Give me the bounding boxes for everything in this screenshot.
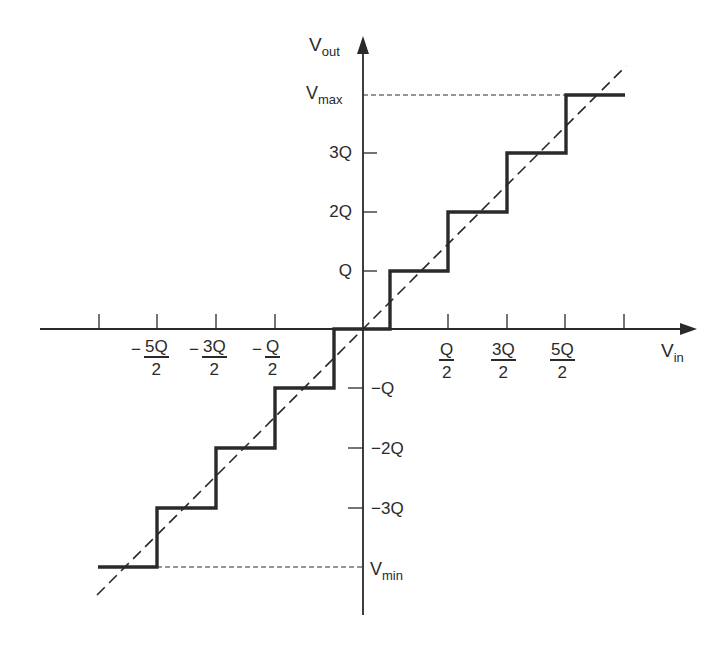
- x-tick-label-q-2: Q2: [439, 341, 454, 381]
- y-limit-min-label: Vmin: [370, 560, 403, 578]
- x-ticks: [99, 314, 624, 329]
- quantizer-diagram: [0, 0, 728, 645]
- y-tick-label-2q: 2Q: [292, 203, 352, 220]
- y-tick-label-q: Q: [292, 262, 352, 279]
- y-tick-label-neg-2q: −2Q: [371, 440, 404, 457]
- y-tick-label-neg-3q: −3Q: [371, 500, 404, 517]
- x-tick-label-neg-3q-2: − 3Q2: [189, 338, 227, 378]
- x-axis-arrow-icon: [680, 323, 697, 335]
- x-tick-label-5q-2: 5Q2: [550, 341, 575, 381]
- y-tick-label-3q: 3Q: [292, 144, 352, 161]
- y-axis-label: Vout: [309, 35, 340, 54]
- x-tick-label-neg-q-2: − Q2: [252, 338, 280, 378]
- y-limit-max-label: Vmax: [306, 84, 343, 102]
- y-tick-label-neg-q: −Q: [371, 380, 394, 397]
- x-tick-label-neg-5q-2: − 5Q2: [131, 338, 169, 378]
- x-tick-label-3q-2: 3Q2: [491, 341, 516, 381]
- quantizer-staircase: [98, 95, 625, 567]
- x-axis-label: Vin: [661, 341, 684, 360]
- y-axis-arrow-icon: [357, 36, 369, 54]
